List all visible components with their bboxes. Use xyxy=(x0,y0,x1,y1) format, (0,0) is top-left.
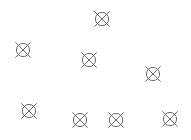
crossed-circle-icon xyxy=(158,107,182,131)
crossed-circle-icon xyxy=(90,7,114,31)
crossed-circle-icon xyxy=(68,108,92,132)
crossed-circle-icon xyxy=(77,48,101,72)
crossed-circle-icon xyxy=(17,99,41,123)
crossed-circle-icon xyxy=(141,62,165,86)
symbol-canvas xyxy=(0,0,191,140)
crossed-circle-icon xyxy=(11,38,35,62)
crossed-circle-icon xyxy=(104,108,128,132)
